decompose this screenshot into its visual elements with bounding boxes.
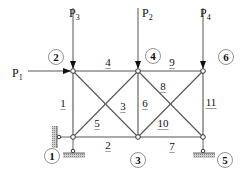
node-label-6: 6: [219, 50, 234, 65]
member-label-5: 5: [94, 117, 100, 129]
svg-text:3: 3: [135, 154, 141, 166]
node-1-joint: [71, 135, 76, 140]
svg-text:2: 2: [53, 51, 59, 63]
member-label-2: 2: [105, 139, 111, 151]
load-p1: P1: [12, 66, 70, 82]
node-label-3: 3: [131, 153, 146, 168]
node-label-5: 5: [218, 153, 233, 168]
node-6-joint: [201, 69, 206, 74]
svg-text:4: 4: [150, 50, 156, 62]
member-label-10: 10: [158, 117, 170, 129]
load-p4: P4: [200, 6, 211, 68]
member-label-9: 9: [169, 56, 175, 68]
node-label-1: 1: [45, 149, 60, 164]
node-3-joint: [136, 135, 141, 140]
load-label: P3: [69, 6, 80, 22]
node-label-4: 4: [146, 49, 161, 64]
node-2-joint: [71, 69, 76, 74]
load-label: P4: [200, 6, 211, 22]
roller-support-node-5: [193, 139, 215, 158]
node-label-2: 2: [49, 50, 64, 65]
load-p3: P3: [69, 6, 80, 68]
truss-members: [73, 71, 203, 137]
truss-diagram: P1P2P3P4 1234567891011 123456: [0, 0, 247, 180]
member-label-4: 4: [105, 56, 111, 68]
member-label-1: 1: [60, 97, 66, 109]
load-label: P1: [12, 66, 23, 82]
member-label-7: 7: [169, 140, 175, 152]
member-label-11: 11: [206, 96, 217, 108]
member-label-3: 3: [120, 100, 126, 112]
member-label-6: 6: [142, 97, 148, 109]
svg-text:6: 6: [223, 51, 229, 63]
member-label-8: 8: [160, 80, 166, 92]
supports: [52, 126, 215, 158]
svg-text:5: 5: [222, 154, 228, 166]
node-4-joint: [136, 69, 141, 74]
load-label: P2: [142, 6, 153, 22]
node-5-joint: [201, 135, 206, 140]
svg-text:1: 1: [49, 150, 55, 162]
